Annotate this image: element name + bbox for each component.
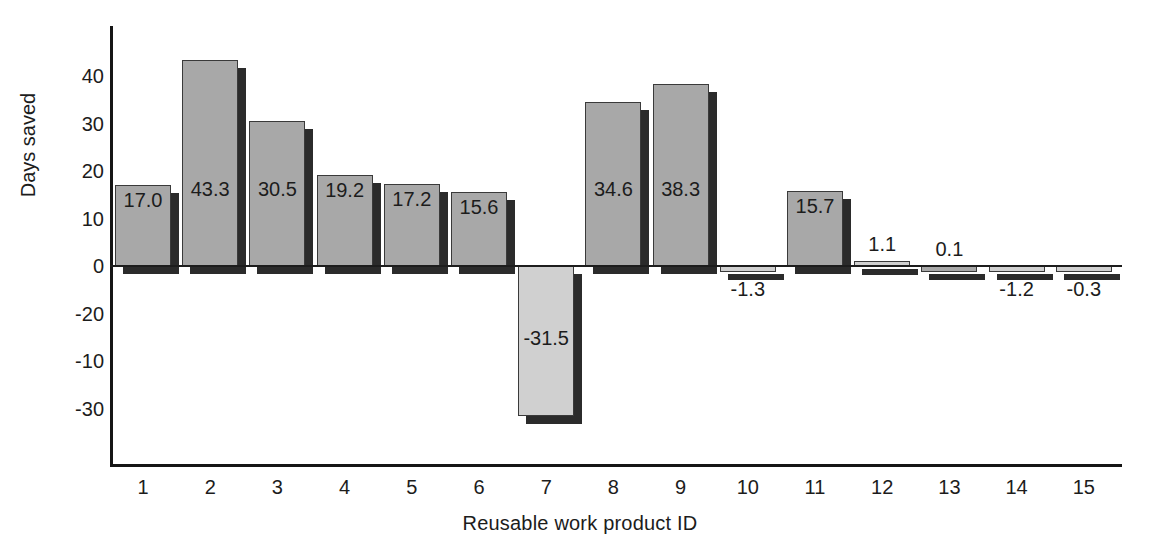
bar-value-label: -0.3 [1039, 278, 1129, 301]
x-axis-tick-label: 5 [382, 476, 442, 499]
bar-shadow [862, 269, 918, 275]
plot-area: 17.043.330.519.217.215.6-31.534.638.3-1.… [110, 26, 1122, 467]
bar-group [249, 26, 305, 467]
x-axis-tick-label: 9 [651, 476, 711, 499]
bar-group [182, 26, 238, 467]
y-axis-tick-label: 40 [58, 65, 104, 88]
x-axis-tick-label: 4 [315, 476, 375, 499]
bar-value-label: -1.3 [703, 278, 793, 301]
y-axis-title-text: Days saved [13, 25, 43, 265]
x-axis-tick-label: 15 [1054, 476, 1114, 499]
bar-value-label: 15.7 [770, 195, 860, 218]
bar-group [451, 26, 507, 467]
bar-value-label: 0.1 [904, 238, 994, 261]
bar-group [787, 26, 843, 467]
bar-group [317, 26, 373, 467]
y-axis-tick-label: 20 [58, 160, 104, 183]
bar-group [585, 26, 641, 467]
bar-group [720, 26, 776, 467]
y-axis-tick-label: -30 [58, 397, 104, 420]
bar-group [115, 26, 171, 467]
x-axis-tick-label: 1 [113, 476, 173, 499]
x-axis-tick-label: 10 [718, 476, 778, 499]
bar[interactable] [182, 60, 238, 266]
bar[interactable] [653, 84, 709, 266]
bar-group [1056, 26, 1112, 467]
y-axis-tick-label: -20 [58, 302, 104, 325]
bar-value-label: 15.6 [434, 196, 524, 219]
x-axis-tick-label: 3 [247, 476, 307, 499]
bar-group [653, 26, 709, 467]
x-axis-tick-label: 11 [785, 476, 845, 499]
bar-chart-figure: Days saved 403020100-20-10-30 17.043.330… [0, 0, 1160, 557]
x-axis-tick-label: 13 [919, 476, 979, 499]
x-axis-tick-label: 8 [583, 476, 643, 499]
y-axis-tick-label: 30 [58, 112, 104, 135]
x-axis-tick-label: 6 [449, 476, 509, 499]
y-axis-tick-labels: 403020100-20-10-30 [52, 0, 104, 557]
zero-baseline [110, 265, 1122, 267]
x-axis-tick-label: 12 [852, 476, 912, 499]
x-axis-tick-labels: 123456789101112131415 [0, 476, 1160, 506]
y-axis-tick-label: -10 [58, 350, 104, 373]
x-axis-title: Reusable work product ID [0, 512, 1160, 535]
bar-group [384, 26, 440, 467]
bar-group [989, 26, 1045, 467]
y-axis-tick-label: 0 [58, 255, 104, 278]
x-axis-tick-label: 2 [180, 476, 240, 499]
bar-value-label: 38.3 [636, 178, 726, 201]
x-axis-tick-label: 7 [516, 476, 576, 499]
bar-value-label: -31.5 [501, 327, 591, 350]
x-axis-tick-label: 14 [987, 476, 1047, 499]
bar-group [518, 26, 574, 467]
